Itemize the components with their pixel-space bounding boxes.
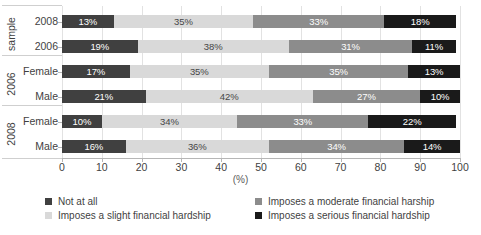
legend-label: Imposes a moderate financial harship [268,196,434,207]
bar-segment: 11% [412,40,456,53]
x-axis-title: (%) [0,174,481,185]
bar-segment-label: 34% [327,142,346,152]
bar-segment: 35% [114,15,253,28]
group-separator [2,55,62,56]
category-label: Male [35,140,58,153]
bar-segment: 38% [138,40,289,53]
bar-segment: 18% [384,15,456,28]
gridline-70 [341,6,342,158]
gridline-50 [261,6,262,158]
category-label: Female [23,65,58,78]
bar-row: 19%38%31%11% [62,40,460,53]
legend-item[interactable]: Not at all [45,196,97,207]
bar-segment-label: 18% [411,17,430,27]
bar-segment-label: 36% [188,142,207,152]
category-label: Male [35,90,58,103]
bar-segment: 22% [368,115,456,128]
bar-row: 21%42%27%10% [62,90,460,103]
x-tick-label: 100 [451,161,469,173]
bar-segment: 35% [130,65,269,78]
legend-item[interactable]: Imposes a serious financial hardship [255,210,430,221]
bar-segment-label: 22% [403,117,422,127]
bar-segment: 21% [62,90,146,103]
x-tick-label: 10 [96,161,108,173]
legend-label: Imposes a slight financial hardship [58,210,211,221]
bar-segment: 19% [62,40,138,53]
category-label: 2006 [35,40,58,53]
bar-segment: 36% [126,140,269,153]
legend-swatch-icon [255,198,262,205]
x-tick-label: 50 [255,161,267,173]
legend-label: Imposes a serious financial hardship [268,210,430,221]
bar-segment-label: 21% [94,92,113,102]
group-separator [2,105,62,106]
bar-segment: 27% [313,90,420,103]
bar-segment-label: 11% [425,42,443,52]
bar-segment: 10% [420,90,460,103]
bar-segment-label: 17% [86,67,105,77]
gridline-30 [181,6,182,158]
bar-segment: 14% [404,140,460,153]
bar-segment-label: 10% [431,92,450,102]
plot-area: 13%35%33%18%19%38%31%11%17%35%35%13%21%4… [62,6,460,158]
bar-segment: 13% [62,15,114,28]
x-tick-label: 90 [414,161,426,173]
gridline-0 [62,6,63,158]
x-tick-label: 30 [176,161,188,173]
bar-segment-label: 27% [357,92,376,102]
gridline-60 [301,6,302,158]
bar-segment: 16% [62,140,126,153]
bar-segment-label: 19% [90,42,109,52]
x-tick-label: 70 [335,161,347,173]
gridline-100 [460,6,461,158]
bar-segment-label: 16% [84,142,103,152]
gridline-20 [142,6,143,158]
bar-row: 10%34%33%22% [62,115,460,128]
bar-segment-label: 14% [423,142,442,152]
bar-segment-label: 10% [73,117,92,127]
bar-segment: 34% [269,140,404,153]
bar-segment-label: 31% [341,42,360,52]
legend-item[interactable]: Imposes a moderate financial harship [255,196,434,207]
legend-swatch-icon [45,212,52,219]
bar-segment-label: 35% [190,67,209,77]
x-tick-label: 60 [295,161,307,173]
gridline-90 [420,6,421,158]
bar-segment-label: 13% [79,17,98,27]
bar-row: 16%36%34%14% [62,140,460,153]
bar-row: 17%35%35%13% [62,65,460,78]
bar-segment: 35% [269,65,408,78]
legend-swatch-icon [45,198,52,205]
group-separator [2,5,62,6]
x-tick-label: 40 [215,161,227,173]
category-label: 2008 [35,15,58,28]
bar-segment-label: 35% [329,67,348,77]
bar-segment: 42% [146,90,313,103]
x-tick-label: 0 [59,161,65,173]
bar-segment-label: 13% [425,67,444,77]
gridline-10 [102,6,103,158]
gridline-40 [221,6,222,158]
chart-legend: Not at allImposes a moderate financial h… [0,194,481,228]
bar-segment: 31% [289,40,412,53]
bar-segment: 34% [102,115,237,128]
bar-segment-label: 35% [174,17,193,27]
bar-segment: 10% [62,115,102,128]
category-axis: 20082006FemaleMaleFemaleMale [0,6,62,158]
bar-segment: 33% [237,115,368,128]
legend-label: Not at all [58,196,97,207]
stacked-bar-chart: sample 2006 2008 20082006FemaleMaleFemal… [0,0,481,235]
bar-segment: 13% [408,65,460,78]
bar-segment-label: 33% [293,117,312,127]
bar-segment-label: 38% [204,42,223,52]
legend-swatch-icon [255,212,262,219]
bar-segment-label: 34% [160,117,179,127]
bar-row: 13%35%33%18% [62,15,460,28]
category-label: Female [23,115,58,128]
bar-segment: 33% [253,15,384,28]
x-tick-label: 80 [375,161,387,173]
bar-segment-label: 42% [220,92,239,102]
gridline-80 [380,6,381,158]
legend-item[interactable]: Imposes a slight financial hardship [45,210,211,221]
bar-segment: 17% [62,65,130,78]
